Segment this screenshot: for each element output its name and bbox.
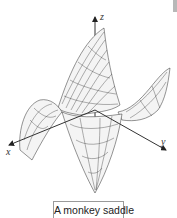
figure-caption: A monkey saddle: [53, 201, 124, 218]
x-axis-label: x: [5, 146, 11, 157]
z-axis-label: z: [99, 11, 104, 22]
corner-tab: [173, 0, 177, 12]
monkey-saddle-figure: z x y: [0, 0, 177, 200]
y-axis-label: y: [160, 136, 166, 147]
